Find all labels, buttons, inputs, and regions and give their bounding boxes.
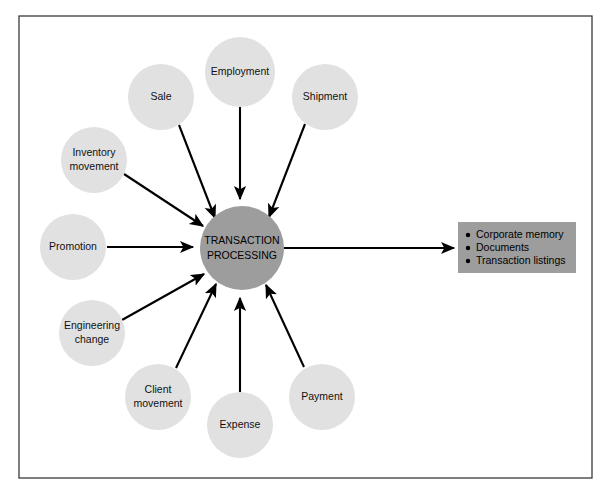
output-item-transaction-listings: Transaction listings — [476, 254, 565, 266]
node-sale[interactable]: Sale — [128, 64, 194, 130]
node-client-movement[interactable]: Client movement — [125, 364, 191, 430]
node-inventory-movement-label-line1: Inventory — [72, 146, 116, 158]
node-payment[interactable]: Payment — [289, 364, 355, 430]
output-bullet-icon — [466, 246, 470, 250]
transaction-processing-diagram: Sale Employment Shipment Inventory movem… — [0, 0, 609, 495]
node-expense-label-line1: Expense — [220, 418, 261, 430]
hub-node-transaction-processing[interactable]: TRANSACTION PROCESSING — [200, 206, 284, 290]
hub-label-line1: TRANSACTION — [204, 234, 279, 246]
diagram-canvas: Sale Employment Shipment Inventory movem… — [0, 0, 609, 495]
node-engineering-change-label-line2: change — [75, 333, 110, 345]
node-promotion[interactable]: Promotion — [40, 214, 106, 280]
node-engineering-change[interactable]: Engineering change — [59, 300, 125, 366]
output-bullet-icon — [466, 259, 470, 263]
node-client-movement-label-line1: Client — [145, 383, 172, 395]
output-item-documents: Documents — [476, 241, 529, 253]
node-inventory-movement-label-line2: movement — [69, 160, 118, 172]
node-employment-label-line1: Employment — [211, 65, 269, 77]
node-client-movement-label-line2: movement — [133, 397, 182, 409]
node-inventory-movement[interactable]: Inventory movement — [61, 127, 127, 193]
node-promotion-label-line1: Promotion — [49, 240, 97, 252]
node-engineering-change-label-line1: Engineering — [64, 319, 120, 331]
output-item-corporate-memory: Corporate memory — [476, 228, 564, 240]
node-employment[interactable]: Employment — [205, 37, 275, 107]
node-payment-label-line1: Payment — [301, 390, 343, 402]
node-shipment[interactable]: Shipment — [292, 64, 358, 130]
node-shipment-label-line1: Shipment — [303, 90, 347, 102]
hub-label-line2: PROCESSING — [207, 249, 277, 261]
output-bullet-icon — [466, 233, 470, 237]
node-sale-label-line1: Sale — [150, 90, 171, 102]
output-box[interactable]: Corporate memory Documents Transaction l… — [458, 222, 576, 273]
node-expense[interactable]: Expense — [207, 392, 273, 458]
